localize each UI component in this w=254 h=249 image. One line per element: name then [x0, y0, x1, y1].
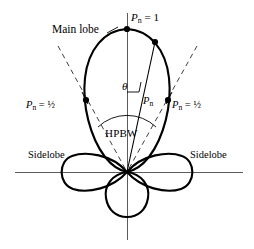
- radius-vector-subscript: n: [149, 99, 153, 108]
- half-power-right-label: Pn = ½: [172, 100, 201, 111]
- peak-power-variable: P: [131, 11, 138, 23]
- half-power-right-equals: =: [182, 99, 193, 110]
- peak-marker-dot: [124, 26, 130, 32]
- half-power-left-value: ½: [47, 99, 54, 110]
- main-lobe-label: Main lobe: [52, 24, 99, 36]
- main-lobe-left-side: [84, 29, 127, 172]
- peak-power-label: Pn = 1: [131, 12, 159, 25]
- theta-angle-label: θ: [122, 81, 127, 92]
- half-power-left-label: Pn = ½: [26, 100, 55, 111]
- dashed-line-left: [58, 46, 127, 172]
- sidelobe-left-label: Sidelobe: [28, 150, 65, 161]
- sidelobe-right-label: Sidelobe: [190, 150, 227, 161]
- radius-endpoint-marker-dot: [152, 39, 158, 45]
- hpbw-label: HPBW: [105, 128, 138, 139]
- pattern-diagram-svg: [0, 0, 254, 249]
- antenna-pattern-figure: Main lobe Sidelobe Sidelobe HPBW Pn = 1 …: [0, 0, 254, 249]
- half-power-right-value: ½: [193, 99, 200, 110]
- half-power-left-equals: =: [36, 99, 47, 110]
- peak-power-equation: = 1: [142, 11, 159, 23]
- radius-vector-label: Pn: [143, 96, 153, 107]
- theta-angle-marker: [127, 82, 141, 92]
